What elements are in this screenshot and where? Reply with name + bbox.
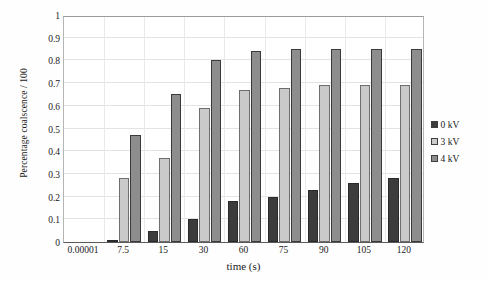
legend-swatch-icon — [431, 121, 438, 128]
x-tick-label: 0.00001 — [68, 245, 99, 255]
y-axis-tick-labels: 00.10.20.30.40.50.60.70.80.91 — [24, 10, 60, 246]
legend-item[interactable]: 3 kV — [431, 133, 487, 150]
x-tick-label: 7.5 — [117, 245, 129, 255]
chart-legend: 0 kV3 kV4 kV — [431, 116, 487, 167]
legend-swatch-icon — [431, 155, 438, 162]
bar — [119, 178, 130, 242]
x-tick-label: 105 — [357, 245, 371, 255]
bar — [148, 231, 159, 242]
legend-swatch-icon — [431, 138, 438, 145]
bar-group — [184, 17, 224, 242]
x-tick-label: 30 — [199, 245, 209, 255]
y-tick-label: 0.5 — [24, 125, 60, 135]
bar — [319, 85, 330, 242]
bar — [308, 190, 319, 242]
bar — [188, 219, 199, 242]
bar — [211, 60, 222, 242]
bar — [279, 88, 290, 242]
bar — [239, 90, 250, 242]
y-tick-label: 0.6 — [24, 102, 60, 112]
y-tick-label: 0.3 — [24, 170, 60, 180]
bar — [159, 158, 170, 242]
bar — [251, 51, 262, 242]
bar-group — [224, 17, 264, 242]
bar-chart-figure: Percentage coalscence / 100 00.10.20.30.… — [0, 0, 488, 281]
bar — [228, 201, 239, 242]
y-tick-label: 0 — [24, 238, 60, 248]
bar — [371, 49, 382, 242]
legend-label: 0 kV — [441, 120, 460, 130]
bar — [199, 108, 210, 242]
bar — [348, 183, 359, 242]
bar — [331, 49, 342, 242]
x-tick-label: 90 — [319, 245, 329, 255]
bar — [130, 135, 141, 242]
bar-group — [265, 17, 305, 242]
bar-group — [104, 17, 144, 242]
bar — [360, 85, 371, 242]
x-tick-label: 60 — [239, 245, 249, 255]
bar-group — [64, 17, 104, 242]
bar-group — [305, 17, 345, 242]
bar — [171, 94, 182, 242]
bar-group — [385, 17, 425, 242]
legend-label: 3 kV — [441, 137, 460, 147]
legend-label: 4 kV — [441, 154, 460, 164]
x-tick-label: 75 — [279, 245, 289, 255]
bar — [411, 49, 422, 242]
bar — [268, 197, 279, 242]
y-tick-label: 0.2 — [24, 193, 60, 203]
legend-item[interactable]: 4 kV — [431, 150, 487, 167]
plot-area — [63, 16, 424, 243]
x-tick-label: 120 — [397, 245, 411, 255]
bar-group — [144, 17, 184, 242]
x-axis-title: time (s) — [63, 260, 424, 272]
y-tick-label: 0.9 — [24, 34, 60, 44]
bar — [107, 240, 118, 242]
legend-item[interactable]: 0 kV — [431, 116, 487, 133]
bar — [291, 49, 302, 242]
bar-group — [345, 17, 385, 242]
y-tick-label: 0.8 — [24, 56, 60, 66]
bar — [388, 178, 399, 242]
x-axis-tick-labels: 0.000017.51530607590105120 — [63, 245, 424, 261]
bar — [400, 85, 411, 242]
x-tick-label: 15 — [159, 245, 169, 255]
y-tick-label: 0.1 — [24, 215, 60, 225]
y-tick-label: 0.4 — [24, 147, 60, 157]
y-tick-label: 1 — [24, 11, 60, 21]
y-tick-label: 0.7 — [24, 79, 60, 89]
